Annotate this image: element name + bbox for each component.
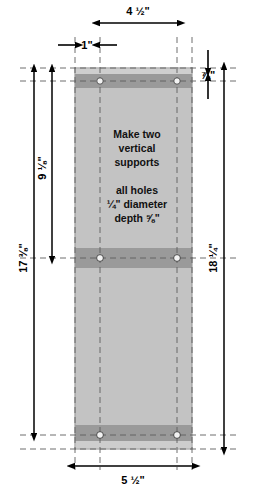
- dimension-label-edge-offset: 1": [81, 39, 92, 51]
- dimension-label-left-upper: 9 ⅛": [36, 156, 48, 180]
- dimension-label-top-width: 4 ½": [126, 5, 150, 17]
- hole-bottom-right: [174, 432, 181, 439]
- dimension-label-bottom-width: 5 ½": [121, 474, 145, 486]
- dimension-label-left-overall: 17 ⅜": [17, 243, 29, 273]
- hole-bottom-left: [97, 432, 104, 439]
- hole-middle-left: [97, 255, 104, 262]
- hole-top-right: [174, 78, 180, 84]
- note-line-6: depth ⅝": [114, 212, 159, 224]
- drawing-svg: 4 ½" 1" ⅞" 9 ⅛" 17 ⅜" 18 ¼": [0, 0, 257, 493]
- dimension-label-right-overall: 18 ¼": [207, 243, 219, 273]
- technical-drawing-canvas: 4 ½" 1" ⅞" 9 ⅛" 17 ⅜" 18 ¼": [0, 0, 257, 493]
- note-line-4: all holes: [116, 184, 158, 196]
- board-bottom-strip: [75, 441, 192, 449]
- note-line-3: supports: [115, 156, 160, 168]
- hole-middle-right: [174, 255, 181, 262]
- note-line-1: Make two: [113, 128, 160, 140]
- dimension-label-top-band-height: ⅞": [201, 69, 215, 81]
- hole-top-left: [97, 78, 103, 84]
- note-line-2: vertical: [119, 142, 156, 154]
- note-line-5: ¼" diameter: [107, 198, 167, 210]
